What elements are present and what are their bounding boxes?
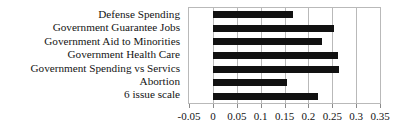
bar [213, 25, 334, 32]
x-axis-tick-label: -0.05 [178, 110, 201, 123]
bar-row [189, 11, 380, 18]
category-label: Government Spending vs Servics [0, 63, 184, 75]
bar [213, 11, 293, 18]
category-label: Government Health Care [0, 49, 184, 61]
category-label: Government Guarantee Jobs [0, 22, 184, 34]
category-label: 6 issue scale [0, 89, 184, 101]
x-axis-tick-label: 0.25 [323, 110, 342, 123]
bar-row [189, 38, 380, 45]
x-axis-tick-label: 0.05 [227, 110, 246, 123]
category-label: Defense Spending [0, 9, 184, 21]
x-axis-tick-label: 0.1 [254, 110, 268, 123]
category-label: Government Aid to Minorities [0, 36, 184, 48]
bar-row [189, 79, 380, 86]
plot-area [188, 7, 381, 104]
tick-mark [189, 104, 190, 108]
x-axis-tick-label: 0.15 [275, 110, 294, 123]
x-axis-tick-label: 0.3 [349, 110, 363, 123]
x-axis-tick-label: 0.35 [370, 110, 389, 123]
bar-row [189, 52, 380, 59]
gridline [380, 8, 381, 103]
bar-row [189, 66, 380, 73]
category-label: Abortion [0, 76, 184, 88]
tick-mark [332, 104, 333, 108]
bar-row [189, 93, 380, 100]
tick-mark [285, 104, 286, 108]
x-axis-ticks [188, 104, 381, 109]
bar [213, 93, 319, 100]
x-axis-tick-label: 0.2 [302, 110, 316, 123]
tick-mark [213, 104, 214, 108]
category-axis-labels: Defense Spending Government Guarantee Jo… [0, 9, 184, 101]
x-axis-labels: -0.0500.050.10.150.20.250.30.35 [0, 110, 401, 128]
bars-layer [189, 8, 380, 103]
tick-mark [308, 104, 309, 108]
tick-mark [380, 104, 381, 108]
x-axis-tick-label: 0 [210, 110, 216, 123]
bar [213, 52, 338, 59]
tick-mark [356, 104, 357, 108]
bar [213, 38, 322, 45]
bar [213, 66, 340, 73]
bar-row [189, 25, 380, 32]
horizontal-bar-chart: Defense Spending Government Guarantee Jo… [0, 0, 401, 133]
tick-mark [261, 104, 262, 108]
tick-mark [237, 104, 238, 108]
bar [213, 79, 287, 86]
